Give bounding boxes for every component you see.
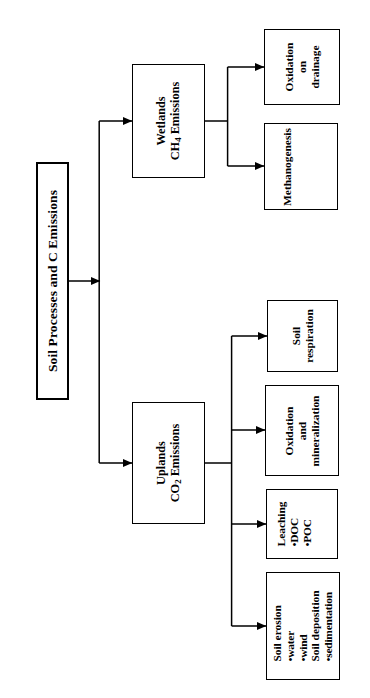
root-node-label: Soil Processes and C Emissions [45,190,60,372]
wetlands-line2: CH4 Emissions [168,82,183,161]
text-line: Leaching [275,502,288,547]
diagram-canvas: Soil Processes and C Emissions Wetlands … [0,0,370,698]
text-line: •POC [300,502,313,547]
uplands-line1: Uplands [154,424,168,503]
branch-node-wetlands[interactable]: Wetlands CH4 Emissions [132,64,205,178]
branch-node-wetlands-label: Wetlands CH4 Emissions [154,82,183,161]
text-line: Soil erosion [271,590,284,661]
branch-node-uplands[interactable]: Uplands CO2 Emissions [132,402,205,524]
leaf-node-oxidation-on-drainage-label: Oxidation on drainage [283,43,321,92]
branch-node-uplands-label: Uplands CO2 Emissions [154,424,183,503]
leaf-node-oxidation-and-mineralization-label: Oxidation and mineralization [283,395,321,466]
text-line: •sedimentation [322,590,335,661]
root-node-soil-processes[interactable]: Soil Processes and C Emissions [36,162,69,400]
leaf-node-soil-erosion-deposition-label: Soil erosion •water •wind Soil depositio… [271,590,335,661]
text-line: Oxidation [283,43,296,92]
text-line: •DOC [288,502,301,547]
leaf-node-methanogenesis-label: Methanogenesis [281,128,294,206]
text-line: Oxidation [283,395,296,466]
text-line: respiration [303,309,316,363]
text-line: Soil deposition [309,590,322,661]
text-line: mineralization [308,395,321,466]
text-line: and [296,395,309,466]
leaf-node-oxidation-on-drainage[interactable]: Oxidation on drainage [264,29,340,105]
leaf-node-soil-erosion-deposition[interactable]: Soil erosion •water •wind Soil depositio… [266,572,340,680]
leaf-node-soil-respiration[interactable]: Soil respiration [267,300,338,372]
leaf-node-oxidation-and-mineralization[interactable]: Oxidation and mineralization [265,385,339,476]
wetlands-line1: Wetlands [154,82,168,161]
leaf-node-soil-respiration-label: Soil respiration [290,309,316,363]
text-line: Methanogenesis [281,128,294,206]
uplands-line2: CO2 Emissions [168,424,183,503]
text-line: •wind [297,590,310,661]
text-line: Soil [290,309,303,363]
leaf-node-leaching-label: Leaching •DOC •POC [275,502,313,547]
leaf-node-leaching[interactable]: Leaching •DOC •POC [266,489,338,559]
leaf-node-methanogenesis[interactable]: Methanogenesis [264,123,338,210]
text-line: •water [284,590,297,661]
text-line: drainage [308,43,321,92]
text-line: on [296,43,309,92]
